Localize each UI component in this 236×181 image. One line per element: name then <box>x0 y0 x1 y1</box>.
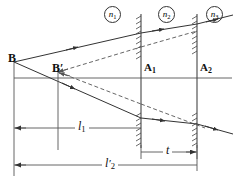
image-point-label: B′ <box>52 62 63 74</box>
ray-lower-arrow-3 <box>205 126 218 130</box>
surface-2-label: A2 <box>200 62 212 75</box>
ray-lower-arrow-1 <box>62 83 75 89</box>
ray-upper <box>14 15 233 62</box>
optics-ray-diagram: n1 n2 n3 B B′ A1 A2 l1 l′2 t <box>0 0 236 181</box>
index-n3-label: n3 <box>211 9 219 20</box>
index-n1-circle: n1 <box>104 6 121 23</box>
dimension-l1-label: l1 <box>75 120 89 134</box>
witness-lines <box>14 62 58 176</box>
dimension-l2-prime-label: l′2 <box>102 157 118 171</box>
refracting-surface-2 <box>192 14 197 148</box>
object-point-label: B <box>8 52 16 64</box>
surface-1-label: A1 <box>144 62 156 75</box>
index-n2-circle: n2 <box>158 6 175 23</box>
index-n3-circle: n3 <box>206 6 223 23</box>
virtual-ray-upper-2 <box>141 31 197 47</box>
diagram-canvas <box>0 0 236 181</box>
index-n2-label: n2 <box>163 9 171 20</box>
virtual-ray-upper-1 <box>58 47 141 72</box>
dimension-t-label: t <box>163 144 172 156</box>
ray-upper-arrow-1 <box>66 47 78 50</box>
index-n1-label: n1 <box>109 9 117 20</box>
